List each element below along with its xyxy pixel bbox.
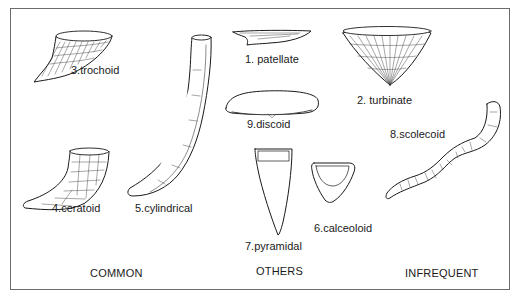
label-patellate: 1. patellate bbox=[245, 53, 299, 65]
group-label-infrequent: INFREQUENT bbox=[405, 267, 479, 279]
label-trochoid: 3.trochoid bbox=[71, 64, 119, 76]
label-calceoloid: 6.calceoloid bbox=[314, 222, 372, 234]
calceoloid-shape bbox=[312, 163, 355, 202]
label-scolecoid: 8.scolecoid bbox=[390, 128, 445, 140]
scolecoid-shape bbox=[386, 102, 500, 199]
turbinate-shape bbox=[343, 27, 431, 86]
label-discoid: 9.discoid bbox=[247, 118, 290, 130]
pyramidal-shape bbox=[255, 149, 292, 235]
label-pyramidal: 7.pyramidal bbox=[245, 240, 302, 252]
group-label-others: OTHERS bbox=[256, 265, 303, 277]
label-cylindrical: 5.cylindrical bbox=[135, 202, 192, 214]
cylindrical-shape bbox=[128, 35, 211, 196]
discoid-shape bbox=[226, 91, 319, 118]
label-turbinate: 2. turbinate bbox=[357, 94, 412, 106]
label-ceratoid: 4.ceratoid bbox=[52, 202, 100, 214]
figure-canvas bbox=[0, 0, 521, 302]
group-label-common: COMMON bbox=[90, 267, 143, 279]
patellate-shape bbox=[233, 30, 311, 45]
ceratoid-shape bbox=[23, 148, 109, 210]
